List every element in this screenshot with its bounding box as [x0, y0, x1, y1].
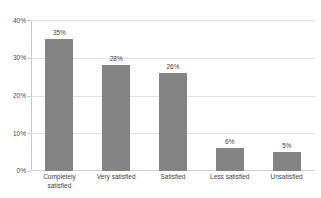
bar-less-satisfied[interactable] [216, 148, 244, 171]
bar-group-less-satisfied[interactable]: 6% [201, 20, 258, 171]
bar-satisfied[interactable] [159, 73, 187, 171]
bar-value-label: 6% [201, 138, 258, 146]
x-axis-category-labels: Completely satisfied Very satisfied Sati… [31, 173, 315, 198]
x-label-satisfied: Satisfied [145, 173, 202, 182]
y-tick-label-30: 30% [2, 54, 26, 61]
x-label-less-satisfied: Less satisfied [201, 173, 258, 182]
bar-value-label: 5% [258, 142, 315, 150]
bar-unsatisfied[interactable] [273, 152, 301, 171]
bar-chart-figure: 40% 30% 20% 10% 0% 35% 28% 26% 6% [0, 0, 321, 198]
x-label-unsatisfied: Unsatisfied [258, 173, 315, 182]
x-label-very-satisfied: Very satisfied [88, 173, 145, 182]
bar-value-label: 35% [31, 29, 88, 37]
y-tick-label-20: 20% [2, 92, 26, 99]
plot-area: 35% 28% 26% 6% 5% [31, 20, 315, 171]
y-tick-label-10: 10% [2, 130, 26, 137]
bar-value-label: 26% [145, 63, 202, 71]
chart-title [18, 0, 308, 3]
y-tick-label-0: 0% [2, 167, 26, 174]
bar-group-very-satisfied[interactable]: 28% [88, 20, 145, 171]
y-tick-label-40: 40% [2, 17, 26, 24]
bar-very-satisfied[interactable] [102, 65, 130, 171]
bar-completely-satisfied[interactable] [45, 39, 73, 171]
bar-group-unsatisfied[interactable]: 5% [258, 20, 315, 171]
bar-group-satisfied[interactable]: 26% [145, 20, 202, 171]
x-label-completely-satisfied: Completely satisfied [31, 173, 88, 190]
y-axis-tick-labels: 40% 30% 20% 10% 0% [0, 0, 26, 198]
bar-group-completely-satisfied[interactable]: 35% [31, 20, 88, 171]
bar-value-label: 28% [88, 55, 145, 63]
y-tick-mark-0 [27, 171, 31, 172]
